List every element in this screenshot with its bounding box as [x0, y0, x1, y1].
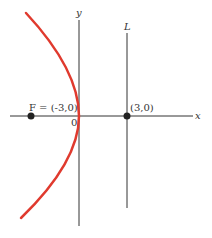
parabola-diagram: x y 0 L F = (-3,0) (3,0) — [0, 0, 212, 238]
y-axis-label: y — [75, 7, 82, 18]
directrix-point-label: (3,0) — [130, 102, 154, 113]
origin-label: 0 — [71, 117, 77, 128]
directrix-label: L — [123, 21, 131, 32]
x-axis-label: x — [195, 110, 201, 121]
focus-label: F = (-3,0) — [29, 102, 78, 113]
directrix-point — [124, 113, 131, 120]
focus-point — [28, 113, 35, 120]
